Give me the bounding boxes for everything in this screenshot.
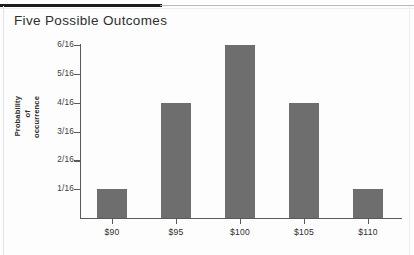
bar: [289, 103, 319, 218]
chart-title: Five Possible Outcomes: [14, 13, 167, 28]
bar: [353, 189, 383, 218]
x-axis-tick-label: $100: [210, 227, 270, 237]
scan-edge-top-dark: [0, 4, 162, 7]
x-axis-tick-label: $95: [146, 227, 206, 237]
y-axis-tick-label: 4/16: [28, 98, 74, 107]
y-axis-tick-label: 2/16: [28, 155, 74, 164]
x-axis-tick: [240, 219, 241, 224]
bar: [225, 45, 255, 218]
bar: [161, 103, 191, 218]
x-axis-tick-label: $90: [82, 227, 142, 237]
x-axis-tick: [304, 219, 305, 224]
y-axis-tick-label: 3/16: [28, 127, 74, 136]
y-axis-tick-label: 5/16: [28, 69, 74, 78]
y-axis-tick-label: 6/16: [28, 40, 74, 49]
x-axis-tick: [368, 219, 369, 224]
scan-edge-top-hairline: [0, 8, 414, 9]
x-axis-tick-label: $105: [274, 227, 334, 237]
y-axis-title-line-2: of: [23, 110, 32, 117]
y-axis-title-line-1: Probability: [13, 96, 22, 136]
scan-edge-top-light: [160, 5, 414, 6]
x-axis-tick: [112, 219, 113, 224]
bar: [97, 189, 127, 218]
x-axis-tick: [176, 219, 177, 224]
scan-edge-right: [409, 6, 410, 255]
plot-area: [80, 45, 400, 218]
y-axis-tick-label: 1/16: [28, 184, 74, 193]
x-axis-tick-label: $110: [338, 227, 398, 237]
chart-page: Five Possible Outcomes Probability of oc…: [0, 0, 414, 255]
